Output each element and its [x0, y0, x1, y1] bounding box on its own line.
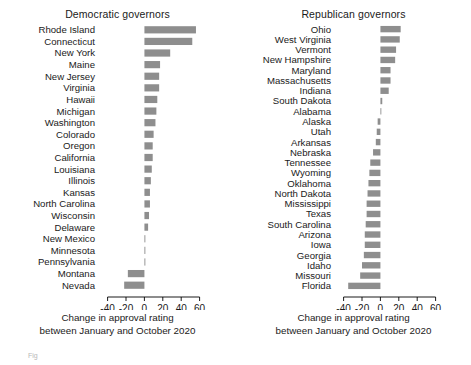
bar	[380, 46, 396, 52]
bar	[144, 212, 149, 219]
bar	[144, 131, 153, 138]
bar	[380, 67, 390, 73]
bar	[144, 61, 160, 68]
bar	[380, 77, 390, 83]
bar	[144, 166, 151, 173]
bar	[144, 26, 196, 33]
figure-footnote: Fig	[28, 352, 38, 359]
x-axis-tick-label: 0	[378, 303, 384, 310]
category-label: Hawaii	[66, 94, 95, 105]
category-label: Minnesota	[51, 245, 96, 256]
axis-caption-democratic: Change in approval rating between Januar…	[0, 311, 235, 337]
x-axis-tick-label: -20	[355, 303, 370, 310]
axis-caption-republican: Change in approval rating between Januar…	[236, 311, 471, 337]
category-label: Montana	[58, 268, 96, 279]
category-label: California	[54, 152, 95, 163]
axis-caption-line2-democratic: between January and October 2020	[0, 324, 235, 337]
bar	[366, 221, 381, 227]
bar	[364, 252, 381, 258]
category-label: New Jersey	[45, 71, 95, 82]
x-axis-tick-label: 20	[157, 303, 169, 310]
bar	[144, 154, 152, 161]
bar	[144, 200, 150, 207]
category-label: New Mexico	[43, 233, 95, 244]
category-label: Oregon	[63, 140, 95, 151]
category-label: Pennsylvania	[38, 256, 96, 267]
bar	[368, 180, 380, 186]
category-label: Virginia	[63, 82, 95, 93]
bar	[144, 119, 155, 126]
bar	[377, 129, 381, 135]
bar	[144, 96, 157, 103]
category-label: Wisconsin	[51, 210, 95, 221]
x-axis-tick-label: 60	[194, 303, 206, 310]
bar	[376, 139, 381, 145]
panel-title-democratic: Democratic governors	[0, 8, 235, 20]
chart-republican-governors: OhioWest VirginiaVermontNew HampshireMar…	[236, 0, 471, 310]
panel-democratic-governors: Democratic governors Rhode IslandConnect…	[0, 0, 235, 340]
category-label: Louisiana	[54, 164, 96, 175]
category-label: North Carolina	[33, 198, 96, 209]
panel-republican-governors: Republican governors OhioWest VirginiaVe…	[236, 0, 471, 340]
category-label: Colorado	[56, 129, 95, 140]
panel-title-republican: Republican governors	[236, 8, 471, 20]
figure-container: Democratic governors Rhode IslandConnect…	[0, 0, 471, 365]
bar	[360, 272, 380, 278]
bar	[365, 231, 381, 237]
category-label: Kansas	[63, 187, 95, 198]
chart-democratic-governors: Rhode IslandConnecticutNew YorkMaineNew …	[0, 0, 235, 310]
bar	[362, 262, 380, 268]
bar	[144, 142, 152, 149]
bar	[144, 84, 159, 91]
bar	[367, 211, 381, 217]
bar	[378, 118, 381, 124]
bar	[367, 201, 381, 207]
bar	[380, 88, 388, 94]
bar	[144, 177, 150, 184]
bar	[144, 258, 145, 265]
bar	[144, 107, 156, 114]
bar	[369, 170, 380, 176]
bar	[128, 270, 145, 277]
axis-caption-line1-democratic: Change in approval rating	[0, 311, 235, 324]
category-label: Delaware	[54, 222, 95, 233]
bar	[373, 149, 380, 155]
x-axis-tick-label: 20	[393, 303, 405, 310]
axis-caption-line2-republican: between January and October 2020	[236, 324, 471, 337]
bar	[380, 98, 382, 104]
category-label: Connecticut	[44, 36, 95, 47]
x-axis-tick-label: 40	[412, 303, 424, 310]
x-axis-tick-label: 0	[142, 303, 148, 310]
bar	[144, 38, 192, 45]
category-label: Rhode Island	[38, 24, 95, 35]
bar	[144, 73, 159, 80]
category-label: Illinois	[68, 175, 95, 186]
category-label: Michigan	[57, 106, 95, 117]
bar	[144, 189, 150, 196]
x-axis-tick-label: -40	[100, 303, 115, 310]
bar	[380, 108, 381, 114]
x-axis-tick-label: 40	[176, 303, 188, 310]
x-axis-tick-label: -40	[336, 303, 351, 310]
bar	[365, 242, 381, 248]
bar	[144, 247, 145, 254]
bar	[380, 26, 400, 32]
bar	[380, 57, 395, 63]
bar	[144, 235, 145, 242]
bar	[370, 159, 380, 165]
x-axis-tick-label: 60	[430, 303, 442, 310]
bar	[380, 36, 399, 42]
category-label: Washington	[45, 117, 95, 128]
bar	[124, 282, 144, 289]
category-label: Florida	[302, 280, 332, 291]
category-label: Maine	[69, 59, 95, 70]
bar	[144, 49, 170, 56]
bar	[368, 190, 381, 196]
category-label: New York	[54, 47, 95, 58]
x-axis-tick-label: -20	[119, 303, 134, 310]
bar	[348, 283, 380, 289]
bar	[144, 224, 148, 231]
category-label: Nevada	[62, 280, 96, 291]
axis-caption-line1-republican: Change in approval rating	[236, 311, 471, 324]
